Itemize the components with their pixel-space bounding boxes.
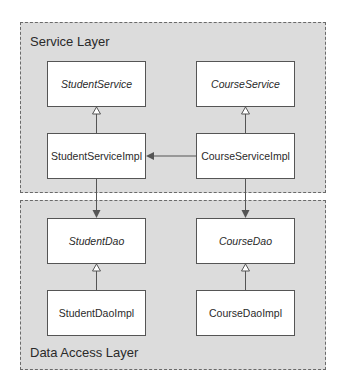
course-service-impl-label: CourseServiceImpl bbox=[201, 150, 290, 162]
course-dao-box: CourseDao bbox=[196, 218, 295, 264]
student-service-label: StudentService bbox=[61, 78, 132, 90]
course-dao-impl-label: CourseDaoImpl bbox=[209, 307, 282, 319]
student-service-impl-box: StudentServiceImpl bbox=[47, 133, 146, 179]
student-service-impl-label: StudentServiceImpl bbox=[51, 150, 142, 162]
course-dao-label: CourseDao bbox=[219, 235, 272, 247]
arrowhead-icon bbox=[146, 152, 154, 160]
student-dao-impl-label: StudentDaoImpl bbox=[59, 307, 134, 319]
student-dao-box: StudentDao bbox=[47, 218, 146, 264]
student-service-box: StudentService bbox=[47, 61, 146, 107]
course-dao-impl-box: CourseDaoImpl bbox=[196, 290, 295, 336]
course-service-label: CourseService bbox=[211, 78, 280, 90]
course-service-impl-box: CourseServiceImpl bbox=[196, 133, 295, 179]
course-service-box: CourseService bbox=[196, 61, 295, 107]
student-dao-impl-box: StudentDaoImpl bbox=[47, 290, 146, 336]
student-dao-label: StudentDao bbox=[69, 235, 124, 247]
hollow-triangle-icon bbox=[93, 107, 101, 114]
